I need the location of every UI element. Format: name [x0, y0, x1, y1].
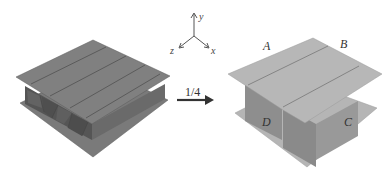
axis-y-label: y — [198, 11, 204, 22]
corner-label-c: C — [344, 115, 353, 129]
axis-x-label: x — [210, 45, 216, 56]
diagram-canvas: y z x 1/4 A B C D — [0, 0, 392, 174]
quarter-cell: A B C D — [228, 37, 382, 167]
arrow-label: 1/4 — [185, 85, 200, 99]
axis-triad — [179, 13, 209, 48]
corner-label-a: A — [262, 39, 271, 53]
reduction-arrow: 1/4 — [177, 85, 214, 105]
corner-label-b: B — [340, 37, 348, 51]
full-panel — [16, 40, 170, 157]
corner-label-d: D — [261, 115, 271, 129]
axis-z-label: z — [169, 45, 174, 56]
